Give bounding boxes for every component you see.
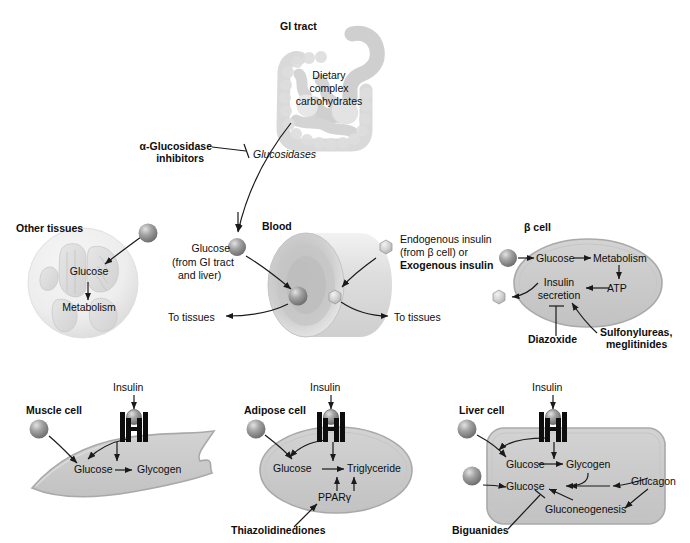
blood-insulin-label-line-1: Endogenous insulin: [400, 233, 492, 246]
adipose-insulin-label: Insulin: [310, 381, 340, 394]
insulin-molecule-icon: [493, 290, 505, 304]
adipose-triglyceride-node: Triglyceride: [347, 462, 401, 475]
glucose-molecule-icon: [30, 420, 49, 439]
blood-insulin-label-line-3: Exogenous insulin: [400, 259, 493, 272]
glucose-into-muscle-arrow: [49, 436, 77, 463]
glucosidases-enzyme-label: Glucosidases: [253, 148, 316, 161]
gi-tract-content-line-1: Dietary: [289, 69, 369, 82]
other-tissues-illustration: [28, 228, 141, 338]
to-tissues-left-label: To tissues: [168, 311, 215, 324]
adipose-glucose-node: Glucose: [273, 462, 312, 475]
beta-cell-atp-node: ATP: [607, 282, 627, 295]
beta-cell-insulin-node-line-1: Insulin: [531, 276, 587, 289]
blood-glucose-label-line-2: (from GI tract: [172, 256, 234, 269]
other-tissues-heading: Other tissues: [16, 222, 83, 235]
alpha-glucosidase-inhibitors-line-2: inhibitors: [108, 152, 204, 165]
glucose-molecule-icon: [247, 420, 266, 439]
liver-glucose-node-lower: Glucose: [506, 480, 545, 493]
muscle-glucose-node: Glucose: [74, 463, 113, 476]
muscle-cell-illustration: [32, 431, 214, 497]
liver-glycogen-node: Glycogen: [566, 458, 610, 471]
other-tissues-metabolism-node: Metabolism: [50, 301, 128, 314]
glucose-molecule-icon: [458, 420, 477, 439]
blood-heading: Blood: [262, 220, 292, 233]
alpha-glucosidase-inhibitors-line-1: α-Glucosidase: [108, 140, 212, 153]
gi-tract-heading: GI tract: [280, 20, 317, 33]
liver-glucose-node-upper: Glucose: [506, 458, 545, 471]
glucose-molecule-icon: [499, 249, 517, 267]
thiazolidinediones-label: Thiazolidinediones: [231, 524, 326, 537]
beta-cell-metabolism-node: Metabolism: [593, 252, 647, 265]
to-tissues-right-label: To tissues: [394, 311, 441, 324]
biguanides-label: Biguanides: [452, 524, 509, 537]
alpha-glucosidase-inhibition-line: [212, 144, 249, 158]
other-tissues-glucose-node: Glucose: [58, 265, 120, 278]
beta-cell-insulin-node-line-2: secretion: [531, 289, 587, 302]
muscle-insulin-label: Insulin: [113, 381, 143, 394]
muscle-cell-heading: Muscle cell: [26, 404, 82, 417]
beta-cell-heading: β cell: [524, 221, 551, 234]
gi-tract-content-line-3: carbohydrates: [280, 95, 378, 108]
muscle-glycogen-node: Glycogen: [137, 463, 181, 476]
sulfonylureas-label-line-2: meglitinides: [606, 338, 667, 351]
glucose-molecule-icon: [228, 238, 246, 256]
diazoxide-label: Diazoxide: [528, 333, 577, 346]
blood-insulin-label-line-2: (from β cell) or: [400, 246, 468, 259]
liver-gluconeogenesis-node: Gluconeogenesis: [545, 503, 626, 516]
glucose-molecule-icon: [139, 224, 158, 243]
liver-cell-heading: Liver cell: [459, 404, 505, 417]
gi-tract-content-line-2: complex: [289, 82, 369, 95]
glucose-molecule-icon: [463, 467, 482, 486]
adipose-cell-heading: Adipose cell: [244, 404, 306, 417]
blood-glucose-label-line-3: and liver): [178, 269, 221, 282]
beta-cell-glucose-node: Glucose: [536, 252, 575, 265]
adipose-ppar-gamma-node: PPARγ: [318, 491, 351, 504]
sulfonylureas-label-line-1: Sulfonylureas,: [600, 326, 672, 339]
blood-glucose-label-line-1: Glucose: [176, 242, 230, 255]
liver-insulin-label: Insulin: [532, 381, 562, 394]
glucagon-label: Glucagon: [631, 475, 676, 488]
